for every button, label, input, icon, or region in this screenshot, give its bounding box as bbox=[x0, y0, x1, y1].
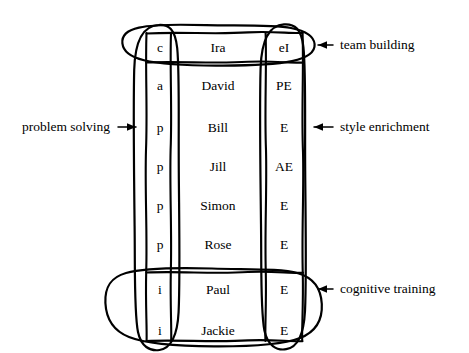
diagram-canvas: c Ira eI a David PE p Bill E p Jill AE p… bbox=[0, 0, 469, 353]
annotation-label-cognitive-training: cognitive training bbox=[340, 282, 436, 296]
annotation-label-problem-solving: problem solving bbox=[22, 120, 110, 134]
annotation-text-layer: team building style enrichment cognitive… bbox=[0, 0, 469, 353]
annotation-label-team-building: team building bbox=[340, 38, 415, 52]
annotation-label-style-enrichment: style enrichment bbox=[340, 120, 430, 134]
